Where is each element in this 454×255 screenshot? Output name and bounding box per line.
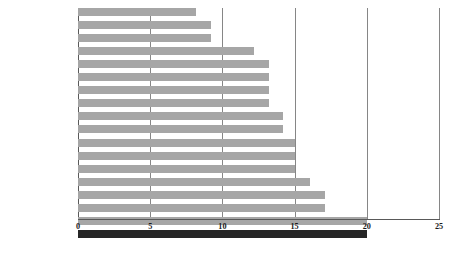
bar-germany [78,165,295,173]
bar-switzerland [78,99,269,107]
bar-portugal [78,8,196,16]
bar-italy [78,73,269,81]
bar-row: Austria [78,139,439,147]
bar-belgium [78,152,295,160]
bar-row: France [78,178,439,186]
bar-row: Italy [78,73,439,81]
bar-row: Denmark [78,47,439,55]
bar-row: United Kingdom [78,204,439,212]
bar-row: Portugal [78,8,439,16]
bar-finland [78,60,269,68]
bar-row: Spain [78,34,439,42]
bar-iceland [78,191,325,199]
x-tick-label-0: 0 [58,222,98,232]
bar-row: Finland [78,60,439,68]
bar-row: Sweden [78,86,439,94]
bar-united-kingdom [78,204,325,212]
plot-area: PortugalGreeceSpainDenmarkFinlandItalySw… [78,8,439,219]
bar-greece [78,21,211,29]
bar-spain [78,34,211,42]
bar-sweden [78,86,269,94]
bar-row: Norway [78,125,439,133]
bar-row: Belgium [78,152,439,160]
x-axis-line [78,219,440,220]
bar-france [78,178,310,186]
x-tick-label-20: 20 [347,222,387,232]
bar-denmark [78,47,254,55]
bar-norway [78,125,283,133]
gridline-25 [439,8,440,219]
bar-row: Switzerland [78,99,439,107]
bar-netherlands [78,112,283,120]
x-tick-label-10: 10 [202,222,242,232]
bar-austria [78,139,295,147]
bar-chart: PortugalGreeceSpainDenmarkFinlandItalySw… [0,0,454,255]
bar-row: Netherlands [78,112,439,120]
bar-row: Germany [78,165,439,173]
x-tick-label-15: 15 [275,222,315,232]
x-tick-label-25: 25 [419,222,454,232]
bar-row: Iceland [78,191,439,199]
bar-row: Greece [78,21,439,29]
x-tick-label-5: 5 [130,222,170,232]
